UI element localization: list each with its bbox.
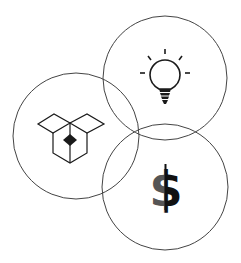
lightbulb-icon	[140, 49, 190, 104]
idea-circle	[103, 16, 227, 140]
dollar-icon: $ $	[149, 161, 182, 217]
product-circle	[13, 73, 139, 199]
venn-diagram: $ $	[0, 0, 241, 263]
box-icon	[38, 114, 104, 163]
